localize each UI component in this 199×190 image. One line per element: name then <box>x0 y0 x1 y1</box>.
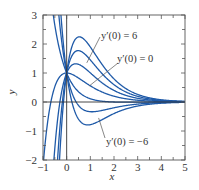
y-axis-label: y <box>5 89 17 95</box>
x-axis-label: x <box>109 170 115 182</box>
x-tick-label: 4 <box>159 161 165 173</box>
y-tick-label: 3 <box>32 9 38 21</box>
x-tick-label: −1 <box>37 161 49 173</box>
solution-curves-chart: −1012345−2−10123 y′(0) = 6 y′(0) = 0 y′(… <box>0 0 199 190</box>
x-tick-label: 5 <box>182 161 188 173</box>
x-tick-label: 0 <box>64 161 70 173</box>
y-tick-label: 0 <box>32 96 38 108</box>
y-tick-label: −1 <box>25 125 37 137</box>
y-tick-label: 1 <box>32 67 38 79</box>
annotation-slope-minus-6: y′(0) = −6 <box>106 136 148 148</box>
y-tick-label: 2 <box>32 38 38 50</box>
x-tick-label: 1 <box>88 161 94 173</box>
y-tick-label: −2 <box>25 154 37 166</box>
annotation-slope-0: y′(0) = 0 <box>117 53 153 65</box>
x-tick-label: 3 <box>135 161 141 173</box>
annotation-slope-6: y′(0) = 6 <box>101 30 137 42</box>
annotation-pointers <box>87 37 118 138</box>
